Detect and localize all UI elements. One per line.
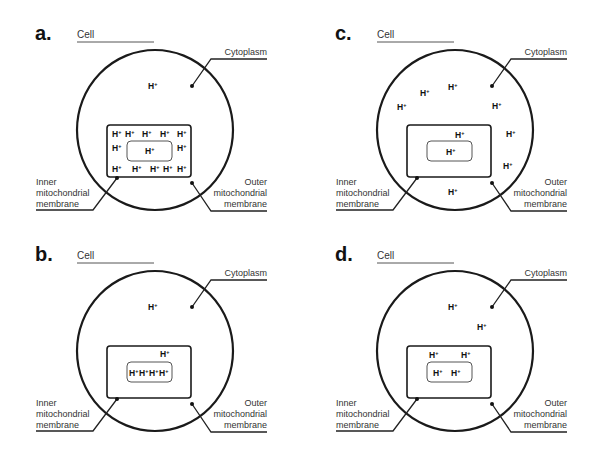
svg-text:H+: H+ <box>148 81 157 91</box>
cell-label: Cell <box>77 250 94 261</box>
panel-letter: a. <box>35 22 52 44</box>
cell-label: Cell <box>377 250 394 261</box>
svg-text:H+: H+ <box>139 368 148 378</box>
inner-membrane-label-line2: mitochondrial <box>36 409 90 419</box>
svg-text:H+: H+ <box>448 82 457 92</box>
outer-membrane-label-line3: membrane <box>524 199 567 209</box>
svg-text:H+: H+ <box>125 129 134 139</box>
cytoplasm-label: Cytoplasm <box>224 268 267 278</box>
svg-text:H+: H+ <box>177 164 186 174</box>
inner-membrane-label-line3: membrane <box>36 420 79 430</box>
outer-membrane-label-line2: mitochondrial <box>213 188 267 198</box>
outer-membrane-label-line3: membrane <box>524 420 567 430</box>
inner-membrane-label-line2: mitochondrial <box>36 188 90 198</box>
inner-membrane-label-line1: Inner <box>36 177 57 187</box>
outer-membrane-label-line1: Outer <box>244 398 267 408</box>
inner-membrane-label-line2: mitochondrial <box>336 409 390 419</box>
svg-text:H+: H+ <box>448 302 457 312</box>
outer-membrane-label-line2: mitochondrial <box>513 188 567 198</box>
svg-text:H+: H+ <box>433 368 442 378</box>
svg-text:H+: H+ <box>448 187 457 197</box>
proton-ions: H+ H+ H+ H+ H+ H+ H+ H+ H+ H+ H+ H+ H+ H… <box>112 81 186 174</box>
inner-membrane-label-line3: membrane <box>36 199 79 209</box>
proton-ions: H+ H+ H+ H+ H+ H+ H+ H+ H+ <box>397 82 515 197</box>
svg-text:H+: H+ <box>503 161 512 171</box>
inner-membrane-label-line2: mitochondrial <box>336 188 390 198</box>
svg-text:H+: H+ <box>112 164 121 174</box>
svg-text:H+: H+ <box>177 129 186 139</box>
svg-text:H+: H+ <box>451 368 460 378</box>
svg-text:H+: H+ <box>506 129 515 139</box>
outer-membrane-label-line2: mitochondrial <box>513 409 567 419</box>
svg-text:H+: H+ <box>159 368 168 378</box>
panel-letter: b. <box>35 243 53 265</box>
outer-membrane-label-line1: Outer <box>544 177 567 187</box>
svg-text:H+: H+ <box>163 164 172 174</box>
mitochondria-proton-diagram: a. Cell Cytoplasm Inner mitochondrial me… <box>0 0 604 454</box>
svg-text:H+: H+ <box>132 164 141 174</box>
proton-ions: H+ H+ H+ H+ H+ H+ <box>129 302 169 378</box>
panel-letter: c. <box>335 22 352 44</box>
panel-d: d. Cell Cytoplasm Inner mitochondrial me… <box>335 243 567 432</box>
inner-membrane-label-line3: membrane <box>336 420 379 430</box>
inner-membrane-label-line1: Inner <box>336 398 357 408</box>
svg-text:H+: H+ <box>455 130 464 140</box>
inner-membrane-label-line1: Inner <box>336 177 357 187</box>
svg-text:H+: H+ <box>461 350 470 360</box>
svg-text:H+: H+ <box>492 101 501 111</box>
inner-membrane-label-line1: Inner <box>36 398 57 408</box>
svg-text:H+: H+ <box>150 164 159 174</box>
svg-text:H+: H+ <box>149 368 158 378</box>
svg-text:H+: H+ <box>112 143 121 153</box>
cytoplasm-label: Cytoplasm <box>524 268 567 278</box>
cytoplasm-label: Cytoplasm <box>224 47 267 57</box>
inner-membrane-label-line3: membrane <box>336 199 379 209</box>
panel-letter: d. <box>335 243 353 265</box>
svg-text:H+: H+ <box>477 322 486 332</box>
svg-text:H+: H+ <box>142 129 151 139</box>
outer-membrane-label-line2: mitochondrial <box>213 409 267 419</box>
svg-text:H+: H+ <box>148 302 157 312</box>
outer-membrane-label-line1: Outer <box>244 177 267 187</box>
svg-text:H+: H+ <box>160 349 169 359</box>
outer-membrane-label-line3: membrane <box>224 420 267 430</box>
svg-text:H+: H+ <box>397 102 406 112</box>
panel-a: a. Cell Cytoplasm Inner mitochondrial me… <box>35 22 267 211</box>
proton-ions: H+ H+ H+ H+ H+ H+ <box>429 302 486 378</box>
cell-label: Cell <box>77 29 94 40</box>
outer-membrane-label-line1: Outer <box>544 398 567 408</box>
svg-text:H+: H+ <box>420 88 429 98</box>
svg-text:H+: H+ <box>145 146 154 156</box>
svg-text:H+: H+ <box>429 350 438 360</box>
outer-membrane-label-line3: membrane <box>224 199 267 209</box>
svg-text:H+: H+ <box>129 368 138 378</box>
svg-text:H+: H+ <box>177 143 186 153</box>
cytoplasm-label: Cytoplasm <box>524 47 567 57</box>
panel-b: b. Cell Cytoplasm Inner mitochondrial me… <box>35 243 267 432</box>
svg-text:H+: H+ <box>112 129 121 139</box>
panel-c: c. Cell Cytoplasm Inner mitochondrial me… <box>335 22 567 211</box>
svg-text:H+: H+ <box>446 147 455 157</box>
cell-label: Cell <box>377 29 394 40</box>
svg-text:H+: H+ <box>160 129 169 139</box>
